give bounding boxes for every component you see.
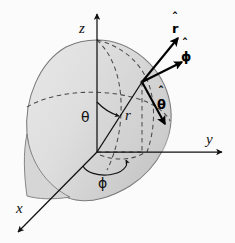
r-hat-label-group: ˆ r xyxy=(172,11,179,36)
radius-label: r xyxy=(125,107,131,123)
r-hat-label: r xyxy=(172,21,179,36)
phi-angle-label: ϕ xyxy=(98,175,107,191)
point-p-marker xyxy=(140,80,143,83)
x-axis-label: x xyxy=(15,200,23,216)
y-axis-label: y xyxy=(204,131,213,147)
z-axis-label: z xyxy=(78,20,85,36)
theta-angle-label: θ xyxy=(81,109,90,125)
spherical-coordinates-figure: z y x r θ ϕ ˆ r ˆ ϕ ˆ xyxy=(0,0,235,243)
phi-hat-label: ϕ xyxy=(181,49,191,64)
figure-canvas: z y x r θ ϕ ˆ r ˆ ϕ ˆ xyxy=(0,0,235,243)
phi-hat-label-group: ˆ ϕ xyxy=(181,37,191,64)
r-hat-arrow xyxy=(142,38,178,82)
theta-hat-label: θ xyxy=(157,97,166,112)
